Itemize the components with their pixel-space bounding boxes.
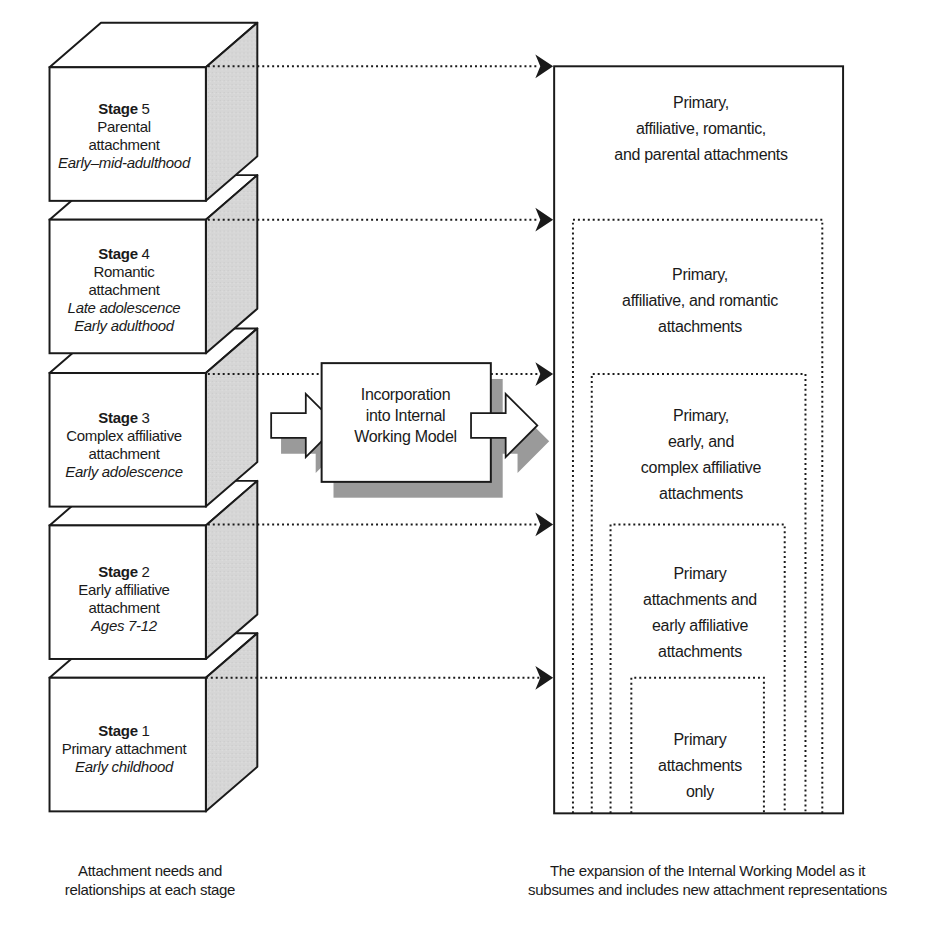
left-caption-line: relationships at each stage <box>20 880 280 899</box>
arrowhead-icon <box>535 513 553 537</box>
iwm-label-5: Primary,affiliative, romantic,and parent… <box>555 90 847 168</box>
stage-label-3: Stage 3Complex affiliativeattachmentEarl… <box>45 409 203 481</box>
iwm-label-4: Primary,affiliative, and romanticattachm… <box>574 262 826 340</box>
iwm-label-line: early affiliative <box>612 613 788 639</box>
stage-title: Stage 5 <box>45 100 203 118</box>
iwm-label-line: attachments <box>612 639 788 665</box>
iwm-label-line: attachments <box>593 481 809 507</box>
stage-label-2: Stage 2Early affiliativeattachmentAges 7… <box>45 563 203 635</box>
stage-period: Late adolescence <box>45 299 203 317</box>
iwm-label-1: Primaryattachmentsonly <box>633 727 767 805</box>
center-box-label: Incorporation into Internal Working Mode… <box>320 384 491 447</box>
iwm-label-line: only <box>633 779 767 805</box>
stage-number: 3 <box>142 409 150 426</box>
stage-label-4: Stage 4RomanticattachmentLate adolescenc… <box>45 245 203 335</box>
stage-label-1: Stage 1Primary attachmentEarly childhood <box>45 722 203 776</box>
left-caption: Attachment needs and relationships at ea… <box>20 861 280 899</box>
stage-word: Stage <box>98 409 137 426</box>
stage-title: Stage 4 <box>45 245 203 263</box>
stage-attachment-type: Early affiliative <box>45 581 203 599</box>
stage-attachment-type: Parental <box>45 118 203 136</box>
iwm-label-2: Primaryattachments andearly affiliativea… <box>612 561 788 665</box>
stage-number: 2 <box>142 563 150 580</box>
iwm-label-line: attachments and <box>612 587 788 613</box>
stage-number: 5 <box>142 100 150 117</box>
stage-attachment-type: attachment <box>45 599 203 617</box>
right-caption-line: The expansion of the Internal Working Mo… <box>470 861 945 880</box>
connector-arrow <box>208 54 553 78</box>
stage-word: Stage <box>98 100 137 117</box>
stage-word: Stage <box>98 563 137 580</box>
stage-word: Stage <box>98 722 137 739</box>
iwm-label-line: affiliative, romantic, <box>555 116 847 142</box>
stage-title: Stage 2 <box>45 563 203 581</box>
left-caption-line: Attachment needs and <box>20 861 280 880</box>
iwm-label-line: early, and <box>593 429 809 455</box>
iwm-label-line: attachments <box>633 753 767 779</box>
right-caption-line: subsumes and includes new attachment rep… <box>470 880 945 899</box>
stage-attachment-type: Complex affiliative <box>45 427 203 445</box>
stage-attachment-type: attachment <box>45 445 203 463</box>
stage-label-5: Stage 5ParentalattachmentEarly–mid-adult… <box>45 100 203 172</box>
iwm-label-line: Primary <box>633 727 767 753</box>
connector-arrow <box>208 513 553 537</box>
stage-title: Stage 3 <box>45 409 203 427</box>
center-line: Incorporation <box>320 384 491 405</box>
stage-number: 1 <box>142 722 150 739</box>
iwm-label-line: Primary, <box>574 262 826 288</box>
arrowhead-icon <box>535 362 553 386</box>
iwm-label-line: complex affiliative <box>593 455 809 481</box>
stage-word: Stage <box>98 245 137 262</box>
iwm-label-line: Primary, <box>555 90 847 116</box>
arrowhead-icon <box>535 54 553 78</box>
iwm-label-3: Primary,early, andcomplex affiliativeatt… <box>593 403 809 507</box>
stage-attachment-type: attachment <box>45 136 203 154</box>
stage-attachment-type: Romantic <box>45 263 203 281</box>
iwm-label-line: attachments <box>574 314 826 340</box>
right-caption: The expansion of the Internal Working Mo… <box>470 861 945 899</box>
stage-period: Early childhood <box>45 758 203 776</box>
iwm-label-line: Primary <box>612 561 788 587</box>
center-line: into Internal <box>320 405 491 426</box>
stage-period: Ages 7-12 <box>45 617 203 635</box>
stage-period: Early adolescence <box>45 463 203 481</box>
stage-period: Early adulthood <box>45 317 203 335</box>
center-line: Working Model <box>320 426 491 447</box>
arrowhead-icon <box>535 208 553 232</box>
stage-attachment-type: Primary attachment <box>45 740 203 758</box>
stage-number: 4 <box>142 245 150 262</box>
connector-arrow <box>208 208 553 232</box>
stage-attachment-type: attachment <box>45 281 203 299</box>
stage-period: Early–mid-adulthood <box>45 154 203 172</box>
iwm-label-line: Primary, <box>593 403 809 429</box>
stage-title: Stage 1 <box>45 722 203 740</box>
iwm-label-line: affiliative, and romantic <box>574 288 826 314</box>
iwm-label-line: and parental attachments <box>555 142 847 168</box>
